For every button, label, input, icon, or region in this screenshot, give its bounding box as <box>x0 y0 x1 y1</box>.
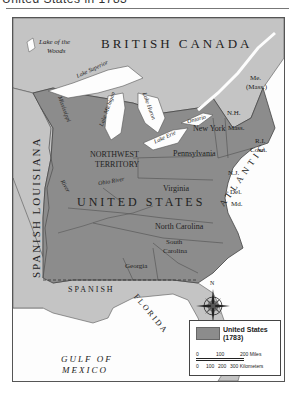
gulf-of-label: GULF OF <box>61 355 113 364</box>
lake-of-the-woods-label: Lake of the <box>39 39 70 46</box>
mexico-label: MEXICO <box>62 366 108 375</box>
maine-label: Me. <box>250 75 261 82</box>
title-divider <box>6 8 289 9</box>
northwest-label: NORTHWEST <box>90 151 139 159</box>
map-legend: United States (1783) 0 100 200 Miles 0 1… <box>189 320 281 376</box>
scale-miles-100: 100 <box>216 351 224 357</box>
united-states-swatch <box>196 327 220 340</box>
new-york-label: New York <box>193 125 225 133</box>
virginia-label: Virginia <box>163 185 189 193</box>
maine-label-2: (Mass.) <box>246 84 267 91</box>
spanish-louisiana-label: SPANISH LOUISIANA <box>31 137 42 278</box>
legend-label-line1: United States <box>223 326 268 334</box>
scale-km-0: 0 <box>196 363 199 369</box>
scale-bar-km <box>196 360 244 361</box>
south-carolina-label-2: Carolina <box>163 248 187 255</box>
scale-miles-200: 200 Miles <box>240 351 261 357</box>
map-title: United States in 1783 <box>2 0 127 6</box>
scale-km-300: 300 Kilometers <box>230 363 263 369</box>
legend-label: United States (1783) <box>223 326 268 342</box>
legend-label-line2: (1783) <box>223 334 268 342</box>
scale-km-100: 100 <box>206 363 214 369</box>
united-states-label: UNITED STATES <box>77 196 205 208</box>
north-carolina-label: North Carolina <box>155 223 203 231</box>
scale-km-200: 200 <box>218 363 226 369</box>
scale-miles-0: 0 <box>196 351 199 357</box>
british-canada-label: BRITISH CANADA <box>101 37 252 50</box>
territory-label: TERRITORY <box>95 161 139 169</box>
compass-north-label: N <box>210 280 214 286</box>
scale-bar-miles <box>196 358 244 359</box>
maryland-label: Md. <box>231 201 242 208</box>
massachusetts-label: Mass. <box>228 125 245 132</box>
pennsylvania-label: Pennsylvania <box>173 150 216 158</box>
lake-of-the-woods-label-2: Woods <box>47 48 65 55</box>
south-carolina-label: South <box>166 239 182 246</box>
new-hampshire-label: N.H. <box>227 110 241 117</box>
georgia-label: Georgia <box>125 263 147 270</box>
spanish-label: SPANISH <box>68 286 115 294</box>
